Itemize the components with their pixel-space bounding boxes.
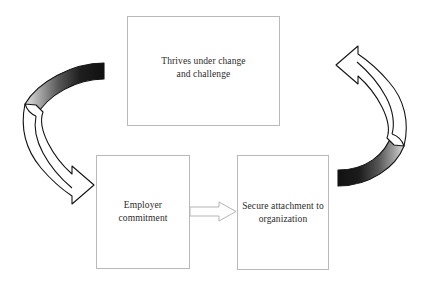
curved-arrow-right-head — [336, 46, 406, 146]
node-label-employer-commitment: Employer commitment — [114, 199, 171, 225]
node-box-employer-commitment: Employer commitment — [96, 155, 190, 269]
diagram-canvas: Thrives under change and challenge Emplo… — [0, 0, 428, 287]
straight-arrow-employer-to-secure — [190, 202, 236, 221]
node-box-thrives: Thrives under change and challenge — [127, 16, 280, 126]
node-label-secure-attachment: Secure attachment to organization — [238, 200, 328, 226]
straight-arrow-shape — [190, 202, 236, 221]
node-label-thrives: Thrives under change and challenge — [157, 55, 249, 81]
curved-arrow-right — [336, 46, 406, 186]
curved-arrow-left-head — [23, 104, 94, 204]
node-box-secure-attachment: Secure attachment to organization — [237, 155, 329, 270]
curved-arrow-left — [23, 63, 104, 204]
